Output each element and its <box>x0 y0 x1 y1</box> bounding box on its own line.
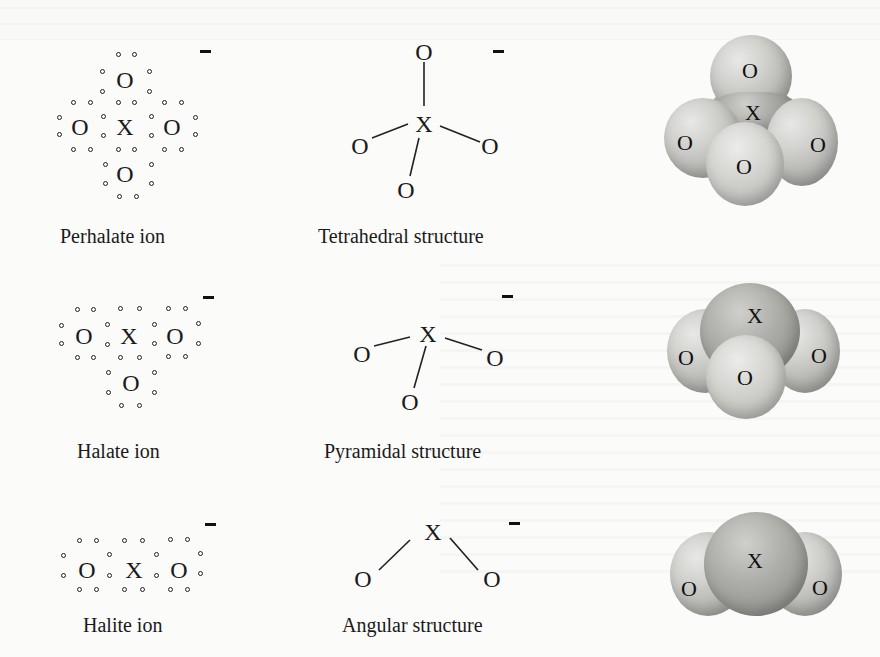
label-o-right: O <box>810 577 830 599</box>
electron-dot <box>107 573 112 578</box>
caption-angular-structure: Angular structure <box>342 614 483 637</box>
electron-dot <box>185 587 190 592</box>
electron-dot <box>168 537 173 542</box>
row-halite: O X O Halite ion X O O <box>0 0 880 657</box>
electron-dot <box>154 552 159 557</box>
electron-dot <box>61 553 66 558</box>
atom-o-left: O <box>353 567 373 591</box>
atom-o-right: O <box>482 567 502 591</box>
electron-dot <box>185 537 190 542</box>
electron-dot <box>140 538 145 543</box>
electron-dot <box>77 538 82 543</box>
electron-dot <box>154 573 159 578</box>
electron-dot <box>168 587 173 592</box>
electron-dot <box>198 551 203 556</box>
caption-halite-ion: Halite ion <box>83 614 162 637</box>
electron-dot <box>122 587 127 592</box>
charge-minus <box>509 522 520 525</box>
atom-x-center: X <box>423 520 443 544</box>
label-x: X <box>745 550 765 572</box>
electron-dot <box>122 538 127 543</box>
atom-o-left: O <box>77 558 97 582</box>
charge-minus <box>205 523 216 526</box>
bond-lines <box>310 500 540 610</box>
electron-dot <box>77 587 82 592</box>
space-filling-halite: X O O <box>650 500 850 650</box>
atom-o-right: O <box>169 558 189 582</box>
electron-dot <box>94 587 99 592</box>
structure-angular: X O O <box>310 500 540 610</box>
electron-dot <box>140 587 145 592</box>
electron-dot <box>94 538 99 543</box>
electron-dot <box>61 573 66 578</box>
electron-dot <box>198 571 203 576</box>
electron-dot <box>107 552 112 557</box>
atom-x-center: X <box>124 558 144 582</box>
lewis-halite: O X O <box>40 500 240 600</box>
label-o-left: O <box>679 578 699 600</box>
